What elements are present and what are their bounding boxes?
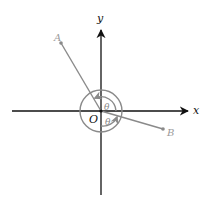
angle-label-lower: θ [105,117,111,127]
point-A-label: A [53,32,61,43]
coordinate-diagram: y x O A B θ θ [0,0,212,203]
origin-dot [99,109,102,112]
y-axis-label: y [96,12,104,25]
point-B-dot [161,127,165,131]
point-B-label: B [166,127,174,138]
segment-OA [61,43,101,111]
origin-label: O [89,113,98,126]
x-axis-label: x [193,104,200,117]
angle-label-upper: θ [104,102,110,112]
